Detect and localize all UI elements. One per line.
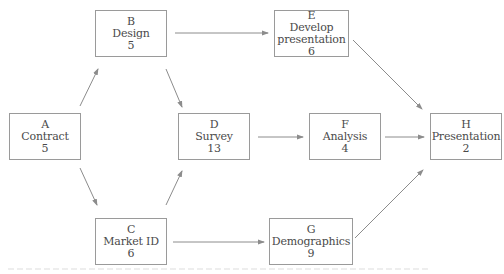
node-duration: 6	[308, 46, 315, 58]
node-letter: E	[308, 10, 316, 22]
node-name-line-1: Develop	[290, 22, 334, 34]
node-name: Contract	[21, 131, 68, 143]
node-name: Demographics	[272, 236, 350, 248]
node-letter: A	[41, 119, 49, 131]
node-name: Market ID	[103, 236, 159, 248]
arrow-a-to-c	[80, 168, 97, 205]
node-duration: 13	[207, 143, 221, 155]
node-letter: B	[127, 16, 135, 28]
node-letter: D	[210, 119, 219, 131]
node-c-market-id: C Market ID 6	[95, 218, 167, 265]
node-duration: 5	[42, 143, 49, 155]
node-duration: 2	[463, 143, 470, 155]
node-duration: 5	[128, 40, 135, 52]
cropped-caption-remnant	[8, 268, 428, 270]
arrow-a-to-b	[80, 69, 98, 106]
node-h-presentation: H Presentation 2	[430, 113, 502, 160]
node-letter: C	[127, 224, 135, 236]
node-duration: 4	[342, 143, 349, 155]
arrow-c-to-d	[166, 171, 182, 205]
node-name: Survey	[195, 131, 233, 143]
node-e-develop-presentation: E Develop presentation 6	[274, 10, 349, 57]
node-f-analysis: F Analysis 4	[309, 113, 381, 160]
node-letter: G	[307, 224, 316, 236]
arrow-b-to-d	[166, 69, 182, 107]
node-name: Analysis	[323, 131, 368, 143]
node-duration: 9	[308, 248, 315, 260]
node-letter: H	[461, 119, 470, 131]
node-name: Design	[112, 28, 149, 40]
node-name-line-2: presentation	[277, 34, 345, 46]
node-d-survey: D Survey 13	[178, 113, 250, 160]
node-duration: 6	[128, 248, 135, 260]
node-name: Presentation	[432, 131, 501, 143]
node-letter: F	[341, 119, 348, 131]
node-a-contract: A Contract 5	[9, 113, 81, 160]
node-g-demographics: G Demographics 9	[269, 218, 353, 265]
node-b-design: B Design 5	[95, 10, 167, 57]
arrow-g-to-h	[355, 170, 423, 238]
arrow-e-to-h	[353, 40, 422, 109]
activity-network-diagram: A Contract 5 B Design 5 C Market ID 6 D …	[0, 0, 504, 274]
